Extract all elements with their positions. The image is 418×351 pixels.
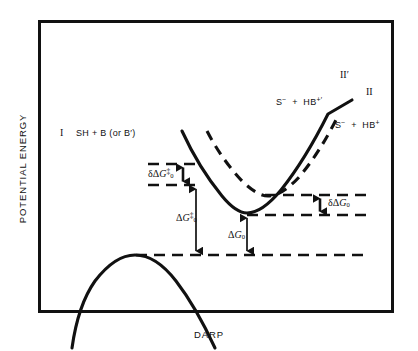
label-delta-delta-g-reaction: δΔG0: [328, 197, 350, 208]
label-delta-delta-g-activation: δΔG‡0: [148, 167, 173, 179]
diagram-canvas: [0, 0, 418, 351]
x-axis-label: DARP: [0, 329, 418, 340]
y-axis-label: POTENTIAL ENERGY: [17, 104, 28, 234]
curve-IIprime-roman-label: II′: [340, 69, 349, 80]
potential-energy-figure: POTENTIAL ENERGY DARP I SH + B (or B′) I…: [0, 0, 418, 351]
curve-IIprime-species-label: S− + HB+′: [276, 96, 322, 107]
figure-frame: [40, 22, 393, 312]
curve-I-species-label: SH + B (or B′): [76, 128, 136, 138]
curve-IIprime-path: [207, 116, 338, 196]
curve-I-roman-label: I: [60, 127, 63, 138]
curve-II-species-label: S− + HB+: [335, 119, 380, 130]
curve-II-roman-label: II: [366, 86, 373, 97]
label-delta-g-reaction: ΔG0: [228, 229, 245, 240]
label-delta-g-activation: ΔG‡0: [176, 211, 197, 223]
